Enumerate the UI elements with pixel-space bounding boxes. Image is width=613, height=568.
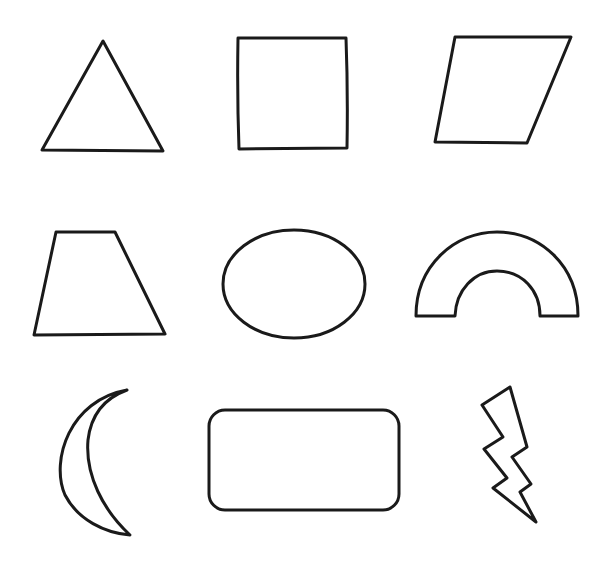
lightning-bolt-shape bbox=[482, 387, 536, 522]
rounded-rectangle-shape bbox=[209, 410, 399, 510]
parallelogram-shape bbox=[435, 37, 571, 143]
shapes-canvas bbox=[0, 0, 613, 568]
arch-shape bbox=[416, 232, 578, 316]
oval-shape bbox=[223, 230, 365, 338]
square-shape bbox=[238, 38, 348, 149]
trapezoid-shape bbox=[34, 232, 165, 335]
triangle-shape bbox=[42, 41, 163, 151]
crescent-shape bbox=[60, 390, 130, 535]
